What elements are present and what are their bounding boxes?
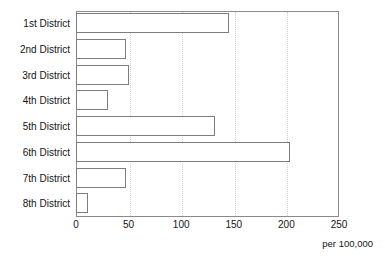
y-axis-label-8: 8th District (0, 191, 73, 217)
bar-row (76, 114, 339, 140)
x-axis-tick-150: 150 (214, 219, 254, 230)
y-axis-label-7: 7th District (0, 166, 73, 192)
x-axis-tick-250: 250 (319, 219, 359, 230)
bar-1 (76, 13, 229, 33)
bar-row (76, 63, 339, 89)
bar-row (76, 166, 339, 192)
bar-chart-figure: 1st District 2nd District 3rd District 4… (0, 0, 385, 261)
x-axis-tick-50: 50 (109, 219, 149, 230)
bar-row (76, 191, 339, 217)
bars-layer (76, 11, 339, 217)
bar-row (76, 37, 339, 63)
y-axis-label-1: 1st District (0, 11, 73, 37)
y-axis-category-labels: 1st District 2nd District 3rd District 4… (0, 11, 73, 217)
bar-row (76, 11, 339, 37)
x-axis-tick-100: 100 (161, 219, 201, 230)
bar-2 (76, 39, 126, 59)
y-axis-label-5: 5th District (0, 114, 73, 140)
x-axis-tick-labels: 0 50 100 150 200 250 (0, 219, 385, 235)
bar-3 (76, 65, 129, 85)
bar-7 (76, 168, 126, 188)
y-axis-label-6: 6th District (0, 140, 73, 166)
bar-8 (76, 193, 88, 213)
bar-row (76, 140, 339, 166)
x-axis-tick-200: 200 (266, 219, 306, 230)
bar-6 (76, 142, 290, 162)
y-axis-label-4: 4th District (0, 88, 73, 114)
bar-4 (76, 90, 108, 110)
unit-caption: per 100,000 (322, 238, 373, 249)
y-axis-label-3: 3rd District (0, 63, 73, 89)
y-axis-label-2: 2nd District (0, 37, 73, 63)
bar-row (76, 88, 339, 114)
x-axis-tick-0: 0 (56, 219, 96, 230)
bar-5 (76, 116, 215, 136)
